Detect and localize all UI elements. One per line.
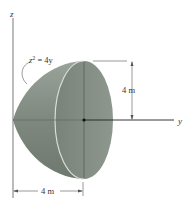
height-arrow-top <box>131 61 134 66</box>
equation-leader <box>22 62 30 84</box>
length-arrow-left <box>13 190 18 193</box>
origin-point <box>82 118 85 121</box>
length-dimension-label: 4 m <box>41 186 54 196</box>
paraboloid-diagram: z y z2 = 4y 4 m 4 m <box>0 0 196 209</box>
height-arrow-bottom <box>131 115 134 120</box>
z-axis-label: z <box>9 9 14 19</box>
length-arrow-right <box>78 190 83 193</box>
diagram-svg: z y z2 = 4y 4 m 4 m <box>0 0 196 209</box>
height-dimension-label: 4 m <box>122 85 135 95</box>
curve-equation: z2 = 4y <box>28 55 54 65</box>
y-axis-label: y <box>177 116 182 126</box>
